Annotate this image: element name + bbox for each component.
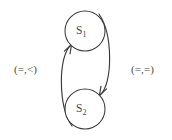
- state-diagram-canvas: S1 S2 (=,<) (=,=): [0, 0, 172, 140]
- node-label-s1-subscript: 1: [83, 30, 87, 39]
- node-label-s2: S2: [76, 103, 87, 117]
- node-label-s1-base: S: [76, 24, 83, 36]
- node-label-s1: S1: [76, 25, 87, 39]
- node-label-s2-subscript: 2: [83, 108, 87, 117]
- edge-label-s2-to-s1: (=,<): [14, 64, 37, 75]
- node-label-s2-base: S: [76, 102, 83, 114]
- edge-label-s1-to-s2: (=,=): [131, 64, 154, 75]
